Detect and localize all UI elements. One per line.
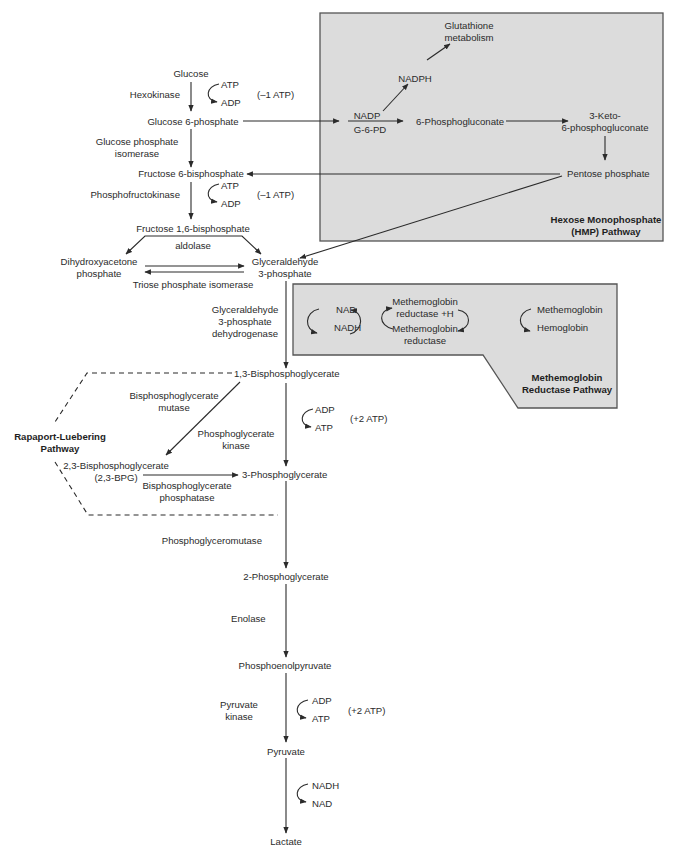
phosphoenolpyruvate-label: Phosphoenolpyruvate xyxy=(239,660,332,672)
adp-label: ADP xyxy=(221,97,241,109)
3-phosphoglycerate-label: 3-Phosphoglycerate xyxy=(242,469,327,481)
dhap-label-2: phosphate xyxy=(77,268,122,280)
nadph-label: NADPH xyxy=(398,73,432,85)
pentose-phosphate-label: Pentose phosphate xyxy=(567,168,650,180)
atp-cost-label: (–1 ATP) xyxy=(257,89,294,101)
gapdh-label-1: Glyceraldehyde xyxy=(212,304,279,316)
nad-label: NAD xyxy=(312,798,332,810)
gapdh-label-3: dehydrogenase xyxy=(212,328,278,340)
atp-gain-label: (+2 ATP) xyxy=(350,413,387,425)
g6pd-label: G-6-PD xyxy=(354,124,387,136)
23-bpg-label-1: 2,3-Bisphosphoglycerate xyxy=(63,460,169,472)
hmp-title-2: (HMP) Pathway xyxy=(571,226,640,238)
pyruvate-kinase-label-1: Pyruvate xyxy=(220,699,258,711)
bpg-mutase-label-2: mutase xyxy=(158,402,189,414)
methemoglobin-reductase-label-2: reductase xyxy=(404,335,446,347)
enolase-label: Enolase xyxy=(231,613,266,625)
pyruvate-kinase-label-2: kinase xyxy=(225,711,253,723)
aldolase-label: aldolase xyxy=(175,240,211,252)
6-phosphogluconate-label: 6-Phosphogluconate xyxy=(416,116,504,128)
pgk-label-2: kinase xyxy=(222,440,250,452)
atp-gain-label: (+2 ATP) xyxy=(348,705,385,717)
hemoglobin-label: Hemoglobin xyxy=(537,322,588,334)
methemoglobin-label: Methemoglobin xyxy=(537,304,603,316)
adp-label: ADP xyxy=(312,695,332,707)
nadp-label: NADP xyxy=(354,110,381,122)
phosphofructokinase-label: Phosphofructokinase xyxy=(90,189,180,201)
glutathione-label-2: metabolism xyxy=(444,32,493,44)
pgk-label-1: Phosphoglycerate xyxy=(198,428,275,440)
2-phosphoglycerate-label: 2-Phosphoglycerate xyxy=(243,571,328,583)
phosphoglyceromutase-label: Phosphoglyceromutase xyxy=(162,535,262,547)
fructose-6-phosphate-label: Fructose 6-bisphosphate xyxy=(138,168,244,180)
pyruvate-label: Pyruvate xyxy=(267,746,305,758)
adp-label: ADP xyxy=(315,404,335,416)
g3p-label-2: 3-phosphate xyxy=(258,268,311,280)
3-keto-label-1: 3-Keto- xyxy=(589,110,620,122)
dhap-label-1: Dihydroxyacetone xyxy=(61,256,138,268)
nad-label: NAD xyxy=(336,304,356,316)
adp-label: ADP xyxy=(221,198,241,210)
glucose-6-phosphate-label: Glucose 6-phosphate xyxy=(147,116,238,128)
bpg-phosphatase-label-1: Bisphosphoglycerate xyxy=(142,480,231,492)
glutathione-label-1: Glutathione xyxy=(444,20,493,32)
23-bpg-label-2: (2,3-BPG) xyxy=(94,472,137,484)
atp-label: ATP xyxy=(221,180,239,192)
atp-cost-label: (–1 ATP) xyxy=(257,189,294,201)
hexokinase-label: Hexokinase xyxy=(130,89,180,101)
tpi-label: Triose phosphate isomerase xyxy=(133,279,254,291)
methemoglobin-reductase-h-label-1: Methemoglobin xyxy=(392,296,458,308)
atp-label: ATP xyxy=(315,422,333,434)
gpi-label-2: isomerase xyxy=(115,148,159,160)
nadh-label: NADH xyxy=(312,780,339,792)
atp-label: ATP xyxy=(221,79,239,91)
rapoport-title-2: Pathway xyxy=(41,443,80,455)
bpg-phosphatase-label-2: phosphatase xyxy=(160,492,215,504)
gpi-label-1: Glucose phosphate xyxy=(96,136,179,148)
glycolysis-diagram: Glucose Hexokinase ATP ADP (–1 ATP) Gluc… xyxy=(0,0,677,855)
methemoglobin-reductase-h-label-2: reductase +H xyxy=(396,308,453,320)
methemoglobin-title-2: Reductase Pathway xyxy=(522,384,612,396)
bpg-mutase-label-1: Bisphosphoglycerate xyxy=(129,390,218,402)
lactate-label: Lactate xyxy=(270,836,301,848)
gapdh-label-2: 3-phosphate xyxy=(218,316,271,328)
atp-label: ATP xyxy=(312,713,330,725)
3-keto-label-2: 6-phosphogluconate xyxy=(562,122,649,134)
g3p-label-1: Glyceraldehyde xyxy=(252,256,319,268)
methemoglobin-reductase-label-1: Methemoglobin xyxy=(392,323,458,335)
nadh-label: NADH xyxy=(334,322,361,334)
13-bisphosphoglycerate-label: 1,3-Bisphosphoglycerate xyxy=(234,368,340,380)
rapoport-title-1: Rapaport-Luebering xyxy=(14,431,106,443)
methemoglobin-title-1: Methemoglobin xyxy=(532,372,603,384)
hmp-title-1: Hexose Monophosphate xyxy=(551,214,662,226)
glucose-label: Glucose xyxy=(173,68,208,80)
fructose-16-bisphosphate-label: Fructose 1,6-bisphosphate xyxy=(136,223,250,235)
